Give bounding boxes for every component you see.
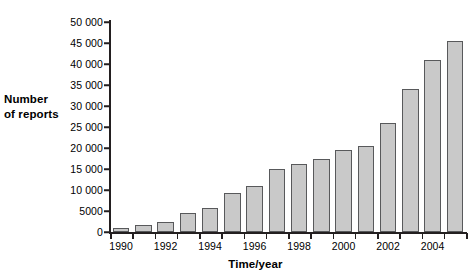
y-axis-tick-mark [104,42,110,44]
y-axis-tick-mark [104,63,110,65]
bar [291,164,307,232]
bar [135,225,151,232]
x-axis-tick-mark [466,233,468,239]
x-axis-tick-mark [355,233,357,239]
y-axis-tick-mark [104,168,110,170]
y-axis-tick-label: 40 000 [70,58,103,70]
y-axis-tick-mark [104,147,110,149]
x-axis-tick-mark [155,233,157,239]
y-axis-tick-label: 0 [97,226,103,238]
bar [335,150,351,232]
y-axis-tick-mark [104,210,110,212]
x-axis-tick-mark [288,233,290,239]
bar [246,186,262,232]
x-axis-tick-mark [110,233,112,239]
y-axis-tick-label: 20 000 [70,142,103,154]
x-axis-tick-mark [422,233,424,239]
y-axis-tick-mark [104,105,110,107]
x-axis-tick-mark [199,233,201,239]
x-axis-tick-mark [333,233,335,239]
x-axis-tick-mark [221,233,223,239]
bar [269,169,285,232]
y-axis-tick-label: 50 000 [70,16,103,28]
bar-chart: Number of reports 0500010 00015 00020 00… [0,0,471,279]
y-axis-tick-labels: 0500010 00015 00020 00025 00030 00035 00… [0,0,103,279]
bar [202,208,218,232]
x-axis-tick-mark [132,233,134,239]
x-axis-title: Time/year [0,258,471,270]
y-axis-tick-label: 30 000 [70,100,103,112]
x-axis-tick-label: 2004 [421,240,445,252]
x-axis-tick-mark [399,233,401,239]
bar [402,89,418,232]
x-axis-tick-mark [266,233,268,239]
y-axis-tick-label: 15 000 [70,163,103,175]
bar [313,159,329,233]
bars-layer [110,18,466,232]
x-axis-tick-mark [244,233,246,239]
bar [424,60,440,232]
x-axis-tick-label: 2002 [376,240,400,252]
bar [380,123,396,232]
bar [358,146,374,232]
x-axis-tick-label: 1990 [109,240,133,252]
bar [113,228,129,232]
y-axis-tick-mark [104,231,110,233]
y-axis-tick-label: 35 000 [70,79,103,91]
x-axis-tick-mark [444,233,446,239]
x-axis-tick-mark [377,233,379,239]
x-axis-tick-label: 1998 [287,240,311,252]
y-axis-tick-label: 45 000 [70,37,103,49]
y-axis-tick-label: 10 000 [70,184,103,196]
y-axis-tick-label: 25 000 [70,121,103,133]
bar [157,222,173,232]
x-axis-tick-label: 2000 [332,240,356,252]
y-axis-tick-mark [104,84,110,86]
bar [447,41,463,232]
bar [180,213,196,232]
y-axis-tick-mark [104,126,110,128]
x-axis-tick-label: 1992 [154,240,178,252]
x-axis-tick-label: 1996 [243,240,267,252]
y-axis-tick-label: 5000 [79,205,103,217]
bar [224,193,240,232]
x-axis-tick-mark [310,233,312,239]
y-axis-tick-mark [104,189,110,191]
x-axis-tick-label: 1994 [198,240,222,252]
y-axis-tick-mark [104,21,110,23]
x-axis-tick-mark [177,233,179,239]
